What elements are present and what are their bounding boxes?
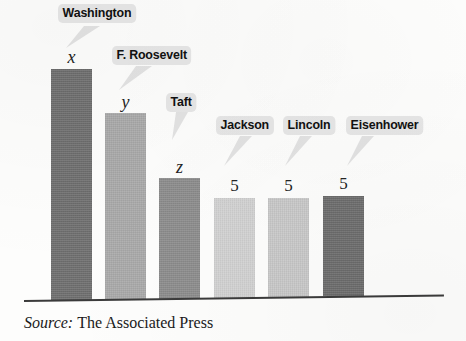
callout-label-jackson: Jackson	[216, 116, 274, 135]
callout-label-taft: Taft	[166, 93, 196, 112]
bar-value-label-jackson: 5	[214, 177, 255, 194]
callout-tail-lincoln	[282, 136, 318, 170]
callout-label-f-roosevelt: F. Roosevelt	[112, 46, 191, 65]
bar-lincoln	[268, 198, 309, 297]
bar-f-roosevelt	[105, 113, 146, 300]
callout-tail-washington	[60, 26, 106, 52]
callout-tail-eisenhower	[344, 136, 380, 170]
callout-label-eisenhower: Eisenhower	[346, 116, 423, 135]
source-publisher: The Associated Press	[77, 314, 213, 331]
callout-tail-taft	[166, 112, 194, 144]
callout-label-washington: Washington	[58, 4, 136, 23]
bar-value-label-lincoln: 5	[268, 177, 309, 194]
chart-figure: x y z 5 5 5 Washington F. Roosevelt Taft…	[0, 0, 466, 341]
source-label: Source:	[24, 314, 73, 331]
bar-value-label-taft: z	[159, 158, 200, 176]
callout-label-lincoln: Lincoln	[283, 116, 335, 135]
bar-jackson	[214, 198, 255, 298]
plot-area: x y z 5 5 5 Washington F. Roosevelt Taft…	[0, 0, 466, 341]
callout-tail-f-roosevelt	[114, 66, 158, 94]
bar-value-label-eisenhower: 5	[323, 175, 364, 192]
bar-taft	[159, 178, 200, 299]
bar-value-label-f-roosevelt: y	[105, 93, 146, 111]
source-attribution: Source:The Associated Press	[24, 314, 213, 332]
bar-washington	[51, 69, 92, 301]
bar-eisenhower	[323, 196, 364, 296]
callout-tail-jackson	[220, 136, 258, 170]
